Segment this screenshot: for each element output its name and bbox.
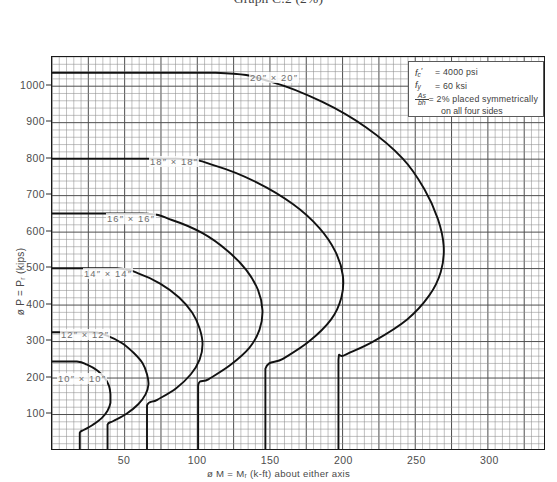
- legend-row-as: As bh = 2% placed symmetrically: [415, 93, 538, 107]
- x-tick-label-50: 50: [104, 454, 144, 466]
- curve-label-5: 12″ × 12″: [60, 329, 110, 340]
- curve-label-6: 10″ × 10″: [57, 373, 107, 384]
- y-tick-label-400: 400: [5, 298, 45, 310]
- y-tick-label-100: 100: [5, 407, 45, 419]
- curve-label-3: 16″ × 16″: [106, 213, 156, 224]
- y-tick-label-700: 700: [5, 188, 45, 200]
- x-tick-label-200: 200: [323, 454, 363, 466]
- figure-root: Graph C.2 (2%) ø P = Pᵣ (kips) 100200300…: [0, 0, 557, 482]
- legend-value-fy: = 60 ksi: [435, 82, 467, 91]
- y-axis-title: ø P = Pᵣ (kips): [15, 222, 26, 342]
- y-tick-label-300: 300: [5, 334, 45, 346]
- y-tick-label-200: 200: [5, 371, 45, 383]
- legend-row-fy: fy = 60 ksi: [415, 80, 538, 94]
- curve-label-4: 14″ × 14″: [83, 268, 133, 279]
- x-axis-title: ø M = Mᵣ (k-ft) about either axis: [0, 468, 557, 479]
- x-tick-label-150: 150: [250, 454, 290, 466]
- legend-value-as: = 2% placed symmetrically: [429, 95, 538, 104]
- legend-value-fc: = 4000 psi: [435, 68, 478, 77]
- legend-symbol-as-ratio: As bh: [415, 93, 429, 106]
- legend-symbol-fc: fc′: [415, 67, 435, 79]
- curve-12by12: [52, 332, 149, 450]
- x-tick-label-300: 300: [469, 454, 509, 466]
- curve-label-2: 18″ × 18″: [149, 156, 199, 167]
- y-tick-label-600: 600: [5, 225, 45, 237]
- y-tick-label-800: 800: [5, 152, 45, 164]
- legend-as-denominator: bh: [415, 100, 429, 106]
- y-tick-label-1000: 1000: [5, 79, 45, 91]
- legend-value-as-cont: on all four sides: [415, 107, 538, 116]
- x-tick-label-250: 250: [396, 454, 436, 466]
- y-tick-label-500: 500: [5, 261, 45, 273]
- figure-title: Graph C.2 (2%): [0, 0, 557, 7]
- legend-symbol-fy: fy: [415, 81, 435, 91]
- y-tick-label-900: 900: [5, 115, 45, 127]
- legend-row-fc: fc′ = 4000 psi: [415, 66, 538, 80]
- curve-label-1: 20″ × 20″: [249, 72, 299, 83]
- legend-box: fc′ = 4000 psi fy = 60 ksi As bh = 2% pl…: [408, 61, 544, 117]
- curve-14by14: [52, 268, 203, 450]
- x-tick-label-100: 100: [177, 454, 217, 466]
